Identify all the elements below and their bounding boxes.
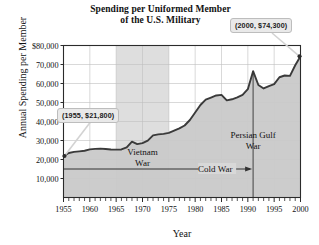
- x-tick-label: 1980: [187, 205, 203, 214]
- y-tick-label: $80,000: [32, 42, 59, 51]
- x-tick-label: 1995: [266, 205, 282, 214]
- y-tick-label: 20,000: [36, 156, 59, 165]
- cold-war-label: Cold War: [198, 164, 232, 174]
- persian-gulf-war-label-line1: Persian Gulf: [230, 130, 275, 140]
- x-tick-label: 1985: [213, 205, 229, 214]
- callout-end-point: (2000, $74,300): [230, 18, 292, 33]
- vietnam-war-label-line1: Vietnam: [127, 147, 157, 157]
- x-tick-label: 1955: [55, 205, 71, 214]
- x-tick-label: 1990: [240, 205, 256, 214]
- x-tick-label: 2000: [292, 205, 308, 214]
- x-tick-label: 1965: [108, 205, 124, 214]
- y-tick-label: 40,000: [36, 118, 59, 127]
- x-tick-label: 1960: [82, 205, 98, 214]
- y-tick-label: 60,000: [36, 80, 59, 89]
- y-tick-label: 30,000: [36, 137, 59, 146]
- leader-end: [272, 33, 300, 56]
- y-tick-label: 10,000: [36, 175, 59, 184]
- y-tick-label: 50,000: [36, 99, 59, 108]
- x-tick-label: 1975: [161, 205, 177, 214]
- persian-gulf-war-label-line2: War: [246, 141, 261, 151]
- y-tick-label: 70,000: [36, 61, 59, 70]
- plot-area: Cold War 10,00020,00030,00040,00050,0006…: [0, 0, 319, 245]
- x-tick-label: 1970: [134, 205, 150, 214]
- vietnam-war-label-line2: War: [135, 158, 150, 168]
- chart-figure: Spending per Uniformed Member of the U.S…: [0, 0, 319, 245]
- chart-svg: Cold War 10,00020,00030,00040,00050,0006…: [0, 0, 319, 245]
- callout-start-point: (1955, $21,800): [57, 108, 119, 123]
